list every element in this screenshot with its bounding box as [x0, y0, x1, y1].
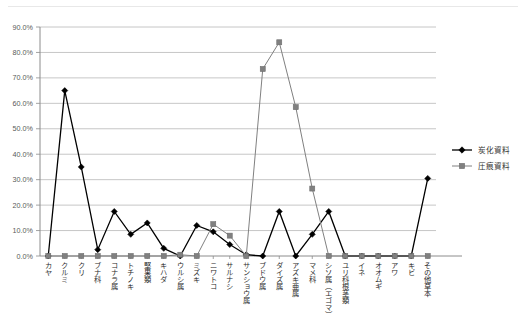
data-point-marker: [276, 208, 282, 214]
x-axis-label: コナラ属: [110, 262, 117, 290]
y-axis-tick-label: 20.0%: [13, 201, 34, 210]
data-point-marker: [112, 254, 117, 259]
data-point-marker: [145, 254, 150, 259]
legend-marker-1: [459, 147, 465, 153]
data-point-marker: [161, 254, 166, 259]
legend-label-2: 圧痕資料: [478, 161, 510, 171]
x-axis-label: マメ科: [308, 262, 315, 283]
data-point-marker: [244, 254, 249, 259]
x-axis-label: イネ: [358, 262, 365, 276]
x-axis-label: アワ: [391, 262, 398, 276]
data-point-marker: [409, 254, 414, 259]
x-axis-label: ブドウ属: [259, 262, 266, 290]
y-axis-tick-label: 90.0%: [13, 23, 34, 32]
x-axis-label: ミズキ: [193, 262, 200, 283]
y-axis-tick-label: 80.0%: [13, 48, 34, 57]
data-point-marker: [78, 164, 84, 170]
data-point-marker: [211, 222, 216, 227]
y-axis-tick-label: 60.0%: [13, 99, 34, 108]
x-axis-label: その他草本: [424, 262, 431, 297]
y-axis-tick-label: 30.0%: [13, 175, 34, 184]
x-axis-label: ユリ科根茎類: [341, 262, 348, 304]
x-axis-label: クリ: [77, 262, 84, 276]
y-axis-tick-label: 0.0%: [17, 252, 34, 261]
data-point-marker: [310, 186, 315, 191]
y-axis-tick-label: 50.0%: [13, 124, 34, 133]
data-point-marker: [128, 254, 133, 259]
x-axis-label: ダイズ属: [275, 262, 282, 290]
data-point-marker: [227, 233, 232, 238]
x-axis-label: ニワトコ: [209, 262, 216, 290]
data-point-marker: [194, 254, 199, 259]
y-axis-tick-label: 10.0%: [13, 226, 34, 235]
data-point-marker: [79, 254, 84, 259]
data-point-marker: [359, 254, 364, 259]
x-axis-label: ブナ科: [94, 262, 101, 283]
data-point-marker: [95, 254, 100, 259]
y-axis-tick-label: 40.0%: [13, 150, 34, 159]
data-point-marker: [425, 175, 431, 181]
x-axis-label: トチノキ: [127, 262, 134, 290]
data-point-marker: [293, 105, 298, 110]
series-line-1: [48, 91, 428, 256]
x-axis-label: アズキ亜属: [292, 262, 299, 297]
chart-container: 0.0%10.0%20.0%30.0%40.0%50.0%60.0%70.0%8…: [0, 0, 526, 329]
x-axis-label: クルミ: [61, 262, 68, 283]
x-axis-label: カヤ: [44, 262, 51, 276]
data-point-marker: [343, 254, 348, 259]
x-axis-label: サンショウ属: [242, 262, 249, 304]
data-point-marker: [62, 88, 68, 94]
series-line-2: [48, 42, 428, 256]
data-point-marker: [46, 254, 51, 259]
legend-label-1: 炭化資料: [478, 145, 510, 155]
data-point-marker: [62, 254, 67, 259]
x-axis-label: 堅果類: [143, 262, 150, 283]
x-axis-label: オオムギ: [374, 262, 381, 290]
data-point-marker: [178, 252, 183, 257]
y-axis-tick-label: 70.0%: [13, 73, 34, 82]
data-point-marker: [95, 247, 101, 253]
data-point-marker: [194, 222, 200, 228]
data-point-marker: [326, 254, 331, 259]
data-point-marker: [376, 254, 381, 259]
data-point-marker: [425, 254, 430, 259]
data-point-marker: [277, 40, 282, 45]
legend-marker-2: [459, 163, 464, 168]
x-axis-label: サルナシ: [226, 262, 233, 290]
x-axis-label: キビ: [407, 262, 414, 276]
data-point-marker: [260, 253, 266, 259]
data-point-marker: [260, 66, 265, 71]
x-axis-label: ウルシ属: [176, 262, 183, 290]
x-axis-label: キハダ: [160, 262, 167, 283]
data-point-marker: [392, 254, 397, 259]
x-axis-label: シソ属（エゴマ）: [325, 262, 332, 318]
